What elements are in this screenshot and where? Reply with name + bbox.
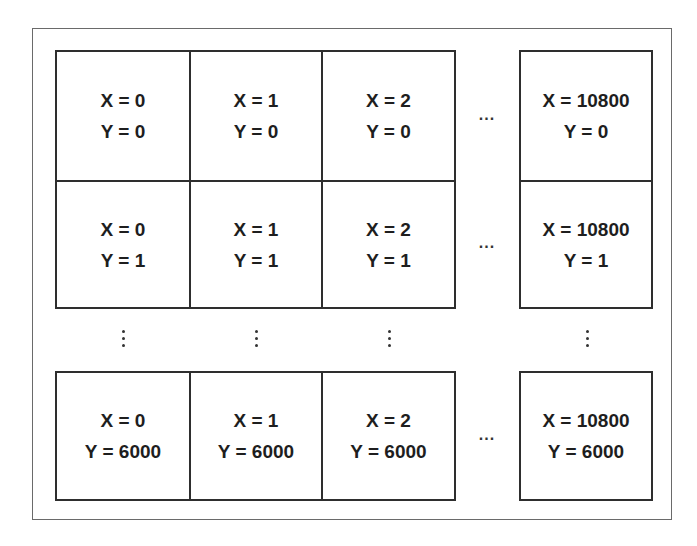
tile-y-label: Y = 0: [234, 116, 279, 147]
tile-x1-y6000: X = 1 Y = 6000: [189, 371, 323, 501]
tile-x2-y6000: X = 2 Y = 6000: [321, 371, 456, 501]
tile-y-label: Y = 1: [101, 245, 146, 276]
tile-x10800-y0: X = 10800 Y = 0: [519, 50, 653, 182]
tile-y-label: Y = 0: [564, 116, 609, 147]
tile-x-label: X = 0: [101, 85, 146, 116]
tile-x10800-y1: X = 10800 Y = 1: [519, 180, 653, 309]
tile-y-label: Y = 0: [101, 116, 146, 147]
tile-x-label: X = 0: [101, 214, 146, 245]
tile-x-label: X = 1: [234, 85, 279, 116]
tile-x-label: X = 2: [366, 214, 411, 245]
tile-x0-y0: X = 0 Y = 0: [55, 50, 191, 182]
tile-x2-y1: X = 2 Y = 1: [321, 180, 456, 309]
tile-x0-y6000: X = 0 Y = 6000: [55, 371, 191, 501]
tile-y-label: Y = 0: [366, 116, 411, 147]
row-ellipsis: [246, 330, 266, 347]
tile-y-label: Y = 6000: [350, 436, 426, 467]
tile-y-label: Y = 1: [366, 245, 411, 276]
column-ellipsis: ...: [467, 110, 507, 120]
tile-x-label: X = 10800: [542, 405, 629, 436]
tile-x-label: X = 10800: [542, 85, 629, 116]
tile-x-label: X = 1: [234, 214, 279, 245]
tile-y-label: Y = 1: [564, 245, 609, 276]
tile-x1-y1: X = 1 Y = 1: [189, 180, 323, 309]
tile-x-label: X = 1: [234, 405, 279, 436]
row-ellipsis: [577, 330, 597, 347]
column-ellipsis: ...: [467, 238, 507, 248]
tile-y-label: Y = 6000: [548, 436, 624, 467]
tile-x10800-y6000: X = 10800 Y = 6000: [519, 371, 653, 501]
tile-x0-y1: X = 0 Y = 1: [55, 180, 191, 309]
tile-y-label: Y = 6000: [85, 436, 161, 467]
row-ellipsis: [113, 330, 133, 347]
tile-x-label: X = 10800: [542, 214, 629, 245]
tile-x1-y0: X = 1 Y = 0: [189, 50, 323, 182]
tile-y-label: Y = 6000: [218, 436, 294, 467]
tile-x2-y0: X = 2 Y = 0: [321, 50, 456, 182]
tile-x-label: X = 2: [366, 85, 411, 116]
tile-y-label: Y = 1: [234, 245, 279, 276]
column-ellipsis: ...: [467, 430, 507, 440]
row-ellipsis: [379, 330, 399, 347]
tile-x-label: X = 0: [101, 405, 146, 436]
tile-x-label: X = 2: [366, 405, 411, 436]
